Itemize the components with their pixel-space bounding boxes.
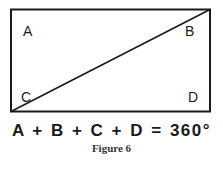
corner-label-a: A xyxy=(23,24,32,38)
corner-label-c: C xyxy=(21,90,31,104)
corner-label-d: D xyxy=(188,90,198,104)
corner-label-b: B xyxy=(185,24,194,38)
angle-sum-equation: A + B + C + D = 360° xyxy=(0,121,223,141)
diagonal-line xyxy=(11,10,210,112)
figure-caption: Figure 6 xyxy=(0,142,223,154)
